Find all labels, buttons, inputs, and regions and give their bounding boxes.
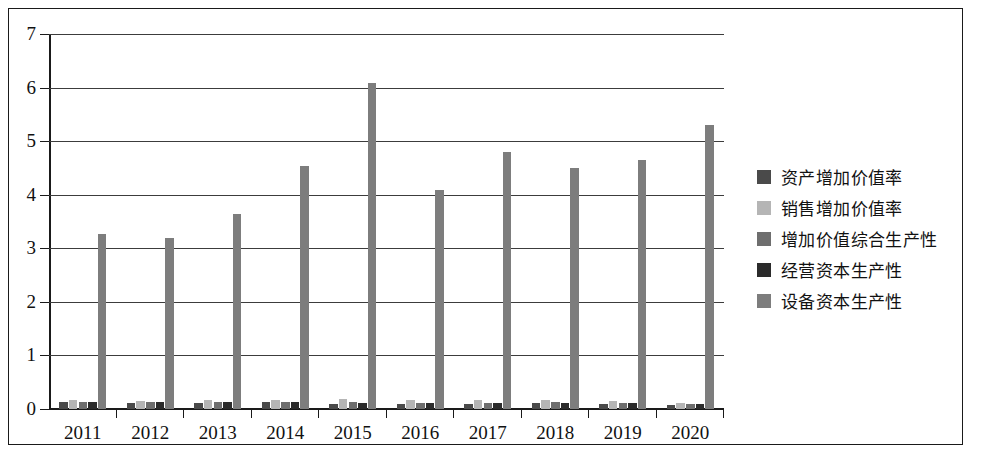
bar-2012-series-3 xyxy=(156,402,165,409)
bar-2012-series-4 xyxy=(165,238,174,409)
bar-2013-series-3 xyxy=(223,402,232,409)
bar-group-2015: 2015 xyxy=(319,34,387,409)
legend-label-1: 销售增加价值率 xyxy=(781,195,903,220)
bar-2017-series-2 xyxy=(484,403,493,409)
bar-2011-series-4 xyxy=(98,234,107,409)
bar-2020-series-4 xyxy=(705,125,714,409)
legend-item-4[interactable]: 设备资本生产性 xyxy=(757,285,957,316)
bar-2018-series-3 xyxy=(561,403,570,409)
y-axis-label-2: 2 xyxy=(27,291,37,313)
bar-2015-series-4 xyxy=(368,83,377,409)
bar-2016-series-3 xyxy=(426,403,435,409)
y-tick-1 xyxy=(40,355,49,356)
y-tick-0 xyxy=(40,409,49,410)
bar-group-2011: 2011 xyxy=(49,34,117,409)
y-axis-label-0: 0 xyxy=(27,398,37,420)
bar-2019-series-1 xyxy=(609,401,618,409)
bar-2012-series-0 xyxy=(127,403,136,409)
y-tick-5 xyxy=(40,141,49,142)
bar-2011-series-2 xyxy=(79,402,88,410)
y-tick-2 xyxy=(40,302,49,303)
y-axis-label-1: 1 xyxy=(27,344,37,366)
x-tick-2020 xyxy=(723,409,724,418)
bar-2020-series-1 xyxy=(676,403,685,409)
bar-2016-series-2 xyxy=(416,403,425,409)
bar-2016-series-4 xyxy=(435,190,444,409)
bar-2020-series-3 xyxy=(696,404,705,409)
x-axis-label-2017: 2017 xyxy=(469,422,507,444)
bar-2019-series-0 xyxy=(599,404,608,409)
bar-2014-series-1 xyxy=(271,400,280,409)
legend-item-2[interactable]: 增加价值综合生产性 xyxy=(757,223,957,254)
y-axis-label-5: 5 xyxy=(27,130,37,152)
bar-2015-series-0 xyxy=(329,404,338,409)
y-axis-label-6: 6 xyxy=(27,77,37,99)
legend-swatch-icon-0 xyxy=(757,170,771,184)
bar-2013-series-4 xyxy=(233,214,242,409)
x-axis-label-2020: 2020 xyxy=(671,422,709,444)
bar-2017-series-1 xyxy=(474,400,483,409)
y-tick-6 xyxy=(40,88,49,89)
x-tick-2011 xyxy=(116,409,117,418)
legend-item-1[interactable]: 销售增加价值率 xyxy=(757,192,957,223)
bar-2014-series-0 xyxy=(262,402,271,409)
bar-2014-series-4 xyxy=(300,166,309,409)
bar-2019-series-3 xyxy=(628,403,637,409)
x-axis-label-2011: 2011 xyxy=(64,422,101,444)
y-axis-label-7: 7 xyxy=(27,23,37,45)
bar-2015-series-3 xyxy=(358,403,367,409)
chart-frame: 0123456720112012201320142015201620172018… xyxy=(8,8,963,445)
bar-group-2012: 2012 xyxy=(117,34,185,409)
bar-group-2017: 2017 xyxy=(454,34,522,409)
y-tick-7 xyxy=(40,34,49,35)
legend-item-0[interactable]: 资产增加价值率 xyxy=(757,161,957,192)
chart-legend: 资产增加价值率销售增加价值率增加价值综合生产性经营资本生产性设备资本生产性 xyxy=(757,161,957,316)
plot-inner: 0123456720112012201320142015201620172018… xyxy=(49,34,724,409)
bar-2015-series-2 xyxy=(349,402,358,409)
bar-group-2013: 2013 xyxy=(184,34,252,409)
x-axis-label-2014: 2014 xyxy=(266,422,304,444)
bar-2011-series-0 xyxy=(59,402,68,409)
legend-label-4: 设备资本生产性 xyxy=(781,288,903,313)
y-axis-label-4: 4 xyxy=(27,184,37,206)
bar-2018-series-2 xyxy=(551,402,560,409)
x-tick-2016 xyxy=(453,409,454,418)
legend-item-3[interactable]: 经营资本生产性 xyxy=(757,254,957,285)
legend-swatch-icon-3 xyxy=(757,263,771,277)
x-axis-label-2015: 2015 xyxy=(334,422,372,444)
bar-2013-series-2 xyxy=(214,402,223,409)
bar-2017-series-4 xyxy=(503,152,512,409)
x-axis-label-2013: 2013 xyxy=(199,422,237,444)
x-tick-2013 xyxy=(251,409,252,418)
bar-2019-series-2 xyxy=(619,403,628,409)
bar-2020-series-0 xyxy=(667,405,676,409)
bar-group-2018: 2018 xyxy=(522,34,590,409)
x-axis-label-2016: 2016 xyxy=(401,422,439,444)
bar-2012-series-2 xyxy=(146,402,155,409)
x-axis-label-2019: 2019 xyxy=(604,422,642,444)
bar-2017-series-3 xyxy=(493,403,502,409)
x-axis-label-2018: 2018 xyxy=(536,422,574,444)
x-tick-2012 xyxy=(183,409,184,418)
bar-group-2016: 2016 xyxy=(387,34,455,409)
bar-2016-series-0 xyxy=(397,404,406,409)
bar-group-2019: 2019 xyxy=(589,34,657,409)
bar-2013-series-0 xyxy=(194,403,203,409)
bar-2015-series-1 xyxy=(339,399,348,409)
bar-group-2014: 2014 xyxy=(252,34,320,409)
legend-label-3: 经营资本生产性 xyxy=(781,257,903,282)
bar-2011-series-3 xyxy=(88,402,97,410)
bar-2014-series-2 xyxy=(281,402,290,409)
x-tick-2015 xyxy=(386,409,387,418)
legend-swatch-icon-2 xyxy=(757,232,771,246)
y-tick-3 xyxy=(40,248,49,249)
legend-label-2: 增加价值综合生产性 xyxy=(781,226,938,251)
bar-2018-series-4 xyxy=(570,168,579,409)
x-tick-2017 xyxy=(521,409,522,418)
bar-2020-series-2 xyxy=(686,404,695,409)
bar-2012-series-1 xyxy=(136,401,145,409)
bar-2017-series-0 xyxy=(464,404,473,409)
legend-label-0: 资产增加价值率 xyxy=(781,164,903,189)
x-tick-2019 xyxy=(656,409,657,418)
legend-swatch-icon-4 xyxy=(757,294,771,308)
